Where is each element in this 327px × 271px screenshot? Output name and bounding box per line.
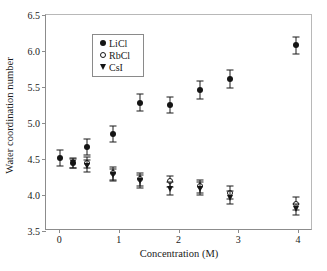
x-tick-label: 2 <box>176 234 181 245</box>
data-series-csi <box>46 15 311 229</box>
x-tick-mark <box>59 229 60 233</box>
error-bar-cap <box>137 174 144 175</box>
x-tick-mark <box>238 229 239 233</box>
legend: LiClRbClCsI <box>92 34 144 77</box>
y-tick-label: 4.5 <box>28 154 41 165</box>
x-axis-title-text: Concentration (M) <box>140 248 218 259</box>
data-point-filled-triangle-down <box>110 172 116 178</box>
error-bar-cap <box>109 169 116 170</box>
x-tick-label: 1 <box>116 234 121 245</box>
error-bar-cap <box>83 171 90 172</box>
y-tick-label: 4.0 <box>28 190 41 201</box>
legend-item-label: CsI <box>109 62 123 73</box>
legend-item-csi: CsI <box>97 61 140 73</box>
data-point-filled-triangle-down <box>227 195 233 201</box>
data-point-filled-triangle-down <box>137 178 143 184</box>
x-tick-mark <box>119 229 120 233</box>
x-tick-mark <box>298 229 299 233</box>
error-bar-cap <box>166 195 173 196</box>
error-bar-cap <box>196 195 203 196</box>
legend-marker-icon <box>97 40 108 46</box>
x-tick-mark <box>179 229 180 233</box>
error-bar-cap <box>109 180 116 181</box>
y-tick-label: 5.5 <box>28 82 41 93</box>
x-tick-label: 3 <box>236 234 241 245</box>
error-bar-cap <box>83 160 90 161</box>
data-point-filled-triangle-down <box>293 206 299 212</box>
error-bar-cap <box>196 182 203 183</box>
legend-marker-icon <box>97 52 108 58</box>
y-tick-mark <box>42 231 46 232</box>
y-tick-label: 6.5 <box>28 10 41 21</box>
y-tick-label: 5.0 <box>28 118 41 129</box>
x-tick-label: 0 <box>57 234 62 245</box>
x-axis-title: Concentration (M) <box>45 248 313 259</box>
data-point-filled-triangle-down <box>167 186 173 192</box>
legend-item-label: LiCl <box>109 38 127 49</box>
y-tick-label: 3.5 <box>28 226 41 237</box>
legend-item-licl: LiCl <box>97 37 140 49</box>
legend-item-label: RbCl <box>109 50 130 61</box>
y-axis-title-text: Water coordination number <box>4 57 15 173</box>
y-tick-label: 6.0 <box>28 46 41 57</box>
data-point-filled-triangle-down <box>70 160 76 166</box>
error-bar-cap <box>226 204 233 205</box>
error-bar-cap <box>226 191 233 192</box>
legend-item-rbcl: RbCl <box>97 49 140 61</box>
error-bar-cap <box>70 167 77 168</box>
x-tick-label: 4 <box>296 234 301 245</box>
data-point-filled-triangle-down <box>84 163 90 169</box>
chart-figure: Water coordination number 3.54.04.55.05.… <box>0 0 327 271</box>
error-bar-cap <box>166 182 173 183</box>
data-point-filled-triangle-down <box>197 186 203 192</box>
error-bar-cap <box>292 215 299 216</box>
error-bar-cap <box>137 187 144 188</box>
y-axis-title: Water coordination number <box>0 0 18 231</box>
plot-area: 3.54.04.55.05.56.06.5 01234 LiClRbClCsI <box>45 14 312 230</box>
legend-marker-icon <box>97 64 108 70</box>
error-bar-cap <box>292 203 299 204</box>
